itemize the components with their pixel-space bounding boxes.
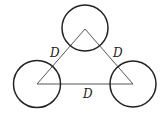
label-bottom-side: D bbox=[82, 87, 93, 101]
circle-top bbox=[62, 5, 108, 51]
label-left-side: D bbox=[49, 46, 60, 60]
label-right-side: D bbox=[112, 46, 123, 60]
three-circles-diagram: D D D bbox=[0, 0, 166, 117]
